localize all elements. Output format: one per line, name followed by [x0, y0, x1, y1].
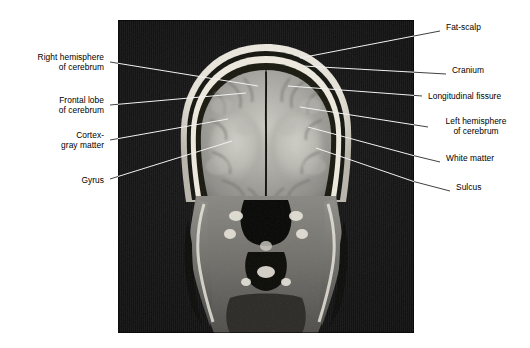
lead-gyrus	[110, 177, 118, 180]
lead-fat-scalp	[414, 31, 440, 36]
lead-left-hemisphere	[414, 125, 428, 127]
lead-cortex-gray-matter-on-film	[118, 119, 228, 139]
lead-cranium	[414, 72, 446, 74]
lead-sulcus-on-film	[316, 148, 414, 182]
lead-gyrus-on-film	[118, 141, 232, 177]
label-cranium: Cranium	[452, 65, 484, 75]
lead-longitudinal-fissure	[414, 95, 422, 96]
lead-cortex-gray-matter	[110, 139, 118, 140]
lead-cranium-on-film	[303, 66, 414, 72]
label-cortex-gray-matter: Cortex- gray matter	[61, 130, 104, 151]
anatomical-figure: Right hemisphere of cerebrum Frontal lob…	[0, 0, 530, 348]
lead-left-hemisphere-on-film	[300, 107, 414, 125]
lead-frontal-lobe-on-film	[118, 93, 246, 104]
lead-right-hemisphere	[110, 62, 118, 63]
label-right-hemisphere: Right hemisphere of cerebrum	[38, 52, 104, 73]
label-white-matter: White matter	[446, 153, 494, 163]
label-longitudinal-fissure: Longitudinal fissure	[428, 91, 501, 101]
lead-frontal-lobe	[110, 104, 118, 105]
label-frontal-lobe: Frontal lobe of cerebrum	[59, 95, 104, 116]
lead-white-matter-on-film	[308, 127, 414, 156]
lead-longitudinal-fissure-on-film	[288, 86, 414, 95]
lead-fat-scalp-on-film	[300, 36, 414, 58]
lead-sulcus	[414, 182, 450, 191]
label-left-hemisphere: Left hemisphere of cerebrum	[428, 116, 524, 137]
lead-white-matter	[414, 156, 440, 162]
label-fat-scalp: Fat-scalp	[446, 22, 481, 32]
lead-right-hemisphere-on-film	[118, 63, 258, 86]
label-sulcus: Sulcus	[456, 182, 481, 192]
label-gyrus: Gyrus	[81, 175, 104, 185]
